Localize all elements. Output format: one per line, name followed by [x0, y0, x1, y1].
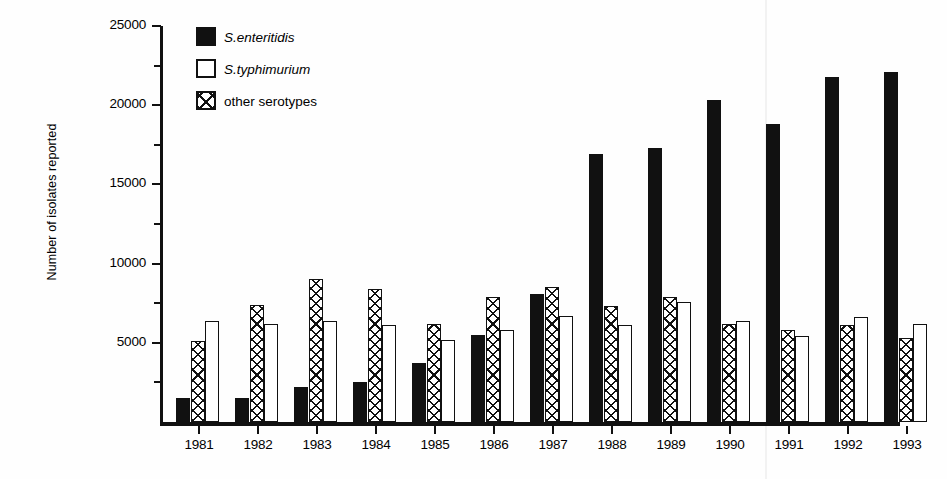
- x-tick: [434, 426, 436, 434]
- bar-1988-other-serotypes: [604, 306, 618, 422]
- y-tick-major: [152, 263, 161, 265]
- bar-1983-s-enteritidis: [294, 387, 308, 422]
- y-axis-title: Number of isolates reported: [45, 87, 59, 317]
- x-tick: [729, 426, 731, 434]
- bar-1982-s-enteritidis: [235, 398, 249, 422]
- y-tick-minor: [154, 223, 161, 225]
- bar-1987-s-typhimurium: [559, 316, 573, 422]
- x-tick: [670, 426, 672, 434]
- x-tick-label: 1987: [523, 437, 583, 452]
- x-tick-label: 1989: [641, 437, 701, 452]
- bar-1992-s-enteritidis: [825, 77, 839, 422]
- x-tick-label: 1988: [582, 437, 642, 452]
- bar-1992-s-typhimurium: [854, 317, 868, 422]
- x-tick: [611, 426, 613, 434]
- bar-1986-s-enteritidis: [471, 335, 485, 422]
- x-tick: [552, 426, 554, 434]
- x-tick: [375, 426, 377, 434]
- y-tick-label: 5000: [88, 334, 146, 349]
- bar-1984-other-serotypes: [368, 289, 382, 422]
- y-tick-major: [152, 25, 161, 27]
- bar-1986-s-typhimurium: [500, 330, 514, 422]
- y-tick-label: 15000: [88, 175, 146, 190]
- y-tick-minor: [154, 144, 161, 146]
- bar-1984-s-enteritidis: [353, 382, 367, 422]
- bar-1991-other-serotypes: [781, 330, 795, 422]
- x-tick-label: 1990: [700, 437, 760, 452]
- y-axis-line: [160, 26, 163, 424]
- legend-swatch-solid: [196, 27, 216, 46]
- x-tick: [316, 426, 318, 434]
- bar-1982-other-serotypes: [250, 305, 264, 422]
- bar-1983-other-serotypes: [309, 279, 323, 422]
- legend-label-hatch: other serotypes: [224, 94, 317, 109]
- bar-1990-s-enteritidis: [707, 100, 721, 422]
- y-tick-label: 10000: [88, 255, 146, 270]
- x-tick: [847, 426, 849, 434]
- bar-1990-s-typhimurium: [736, 321, 750, 422]
- bar-1989-other-serotypes: [663, 297, 677, 422]
- bar-1990-other-serotypes: [722, 324, 736, 422]
- bar-1992-other-serotypes: [840, 325, 854, 422]
- legend-label-open: S.typhimurium: [224, 62, 310, 77]
- bar-1993-s-enteritidis: [884, 72, 898, 422]
- x-tick-label: 1991: [759, 437, 819, 452]
- bar-1988-s-enteritidis: [589, 154, 603, 422]
- bar-1984-s-typhimurium: [382, 325, 396, 422]
- bar-1993-s-typhimurium: [913, 324, 927, 422]
- y-tick-major: [152, 342, 161, 344]
- bar-1987-s-enteritidis: [530, 294, 544, 422]
- y-tick-label: 25000: [88, 17, 146, 32]
- x-tick-label: 1986: [464, 437, 524, 452]
- x-tick: [257, 426, 259, 434]
- x-tick: [493, 426, 495, 434]
- bar-1989-s-enteritidis: [648, 148, 662, 422]
- chart-figure: Number of isolates reported 500010000150…: [0, 0, 947, 479]
- y-tick-minor: [154, 381, 161, 383]
- y-tick-label: 20000: [88, 96, 146, 111]
- x-tick-label: 1984: [346, 437, 406, 452]
- y-tick-minor: [154, 302, 161, 304]
- bar-1985-s-enteritidis: [412, 363, 426, 422]
- bar-1981-s-enteritidis: [176, 398, 190, 422]
- legend-swatch-open: [196, 59, 216, 78]
- x-tick: [906, 426, 908, 434]
- legend-label-solid: S.enteritidis: [224, 30, 295, 45]
- bar-1989-s-typhimurium: [677, 302, 691, 422]
- bar-1985-other-serotypes: [427, 324, 441, 422]
- bar-1991-s-enteritidis: [766, 124, 780, 422]
- bar-1982-s-typhimurium: [264, 324, 278, 422]
- bar-1985-s-typhimurium: [441, 340, 455, 422]
- x-tick-label: 1983: [287, 437, 347, 452]
- bar-1981-other-serotypes: [191, 341, 205, 422]
- x-tick-label: 1982: [228, 437, 288, 452]
- x-tick: [198, 426, 200, 434]
- y-tick-minor: [154, 65, 161, 67]
- y-tick-major: [152, 104, 161, 106]
- x-tick-label: 1981: [169, 437, 229, 452]
- bar-1983-s-typhimurium: [323, 321, 337, 422]
- bar-1987-other-serotypes: [545, 287, 559, 422]
- bar-1981-s-typhimurium: [205, 321, 219, 422]
- x-tick-label: 1993: [877, 437, 937, 452]
- x-tick: [788, 426, 790, 434]
- bar-1993-other-serotypes: [899, 338, 913, 422]
- y-tick-major: [152, 183, 161, 185]
- bar-1986-other-serotypes: [486, 297, 500, 422]
- legend-swatch-hatch: [196, 91, 216, 110]
- bar-1988-s-typhimurium: [618, 325, 632, 422]
- x-tick-label: 1985: [405, 437, 465, 452]
- x-tick-label: 1992: [818, 437, 878, 452]
- bar-1991-s-typhimurium: [795, 336, 809, 422]
